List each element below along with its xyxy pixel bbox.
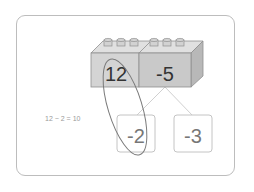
block-pair: 12 -5 bbox=[91, 38, 203, 87]
connector-lines bbox=[137, 87, 192, 115]
equation-text: 12 − 2 = 10 bbox=[45, 115, 81, 122]
block-neg5-label: -5 bbox=[156, 63, 174, 85]
split-box-neg2-label: -2 bbox=[127, 125, 145, 147]
split-box-neg3: -3 bbox=[174, 115, 212, 152]
split-box-neg2: -2 bbox=[117, 115, 155, 152]
split-box-neg3-label: -3 bbox=[184, 125, 202, 147]
number-bond-diagram: 12 -5 -2 -3 12 − 2 = 10 bbox=[0, 0, 254, 192]
